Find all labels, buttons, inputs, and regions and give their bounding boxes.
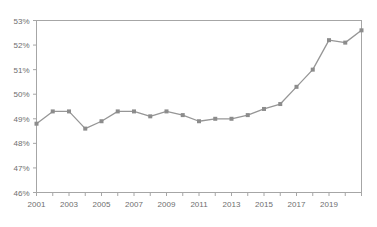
series-marker [148,114,152,118]
series-marker [83,127,87,131]
x-axis-tick-label: 2019 [320,200,338,209]
y-axis-tick-label: 46% [13,189,29,198]
series-markers [35,28,364,130]
line-chart: 46%47%48%49%50%51%52%53% 200120032005200… [0,0,377,227]
series-marker [327,38,331,42]
x-axis-tick-label: 2015 [255,200,273,209]
y-axis-tick-label: 53% [13,17,29,26]
y-axis-ticks [33,21,37,193]
y-axis-labels: 46%47%48%49%50%51%52%53% [13,17,29,198]
series-marker [35,122,39,126]
x-axis-tick-label: 2003 [60,200,78,209]
x-axis-tick-label: 2011 [190,200,208,209]
series-marker [360,28,364,32]
series-marker [67,109,71,113]
x-axis-tick-label: 2005 [93,200,111,209]
y-axis-tick-label: 51% [13,66,29,75]
y-axis-tick-label: 50% [13,90,29,99]
series-marker [213,117,217,121]
plot-frame [37,21,362,193]
y-axis-tick-label: 49% [13,115,29,124]
x-axis-tick-label: 2007 [125,200,143,209]
y-axis-tick-label: 48% [13,139,29,148]
series-marker [100,119,104,123]
series-marker [116,109,120,113]
series-marker [311,68,315,72]
series-marker [262,107,266,111]
series-marker [246,113,250,117]
series-marker [197,119,201,123]
series-marker [181,113,185,117]
y-axis-tick-label: 52% [13,41,29,50]
series-marker [343,41,347,45]
x-axis-ticks [37,193,362,197]
x-axis-tick-label: 2013 [223,200,241,209]
chart-canvas: 46%47%48%49%50%51%52%53% 200120032005200… [0,0,377,227]
x-axis-labels: 2001200320052007200920112013201520172019 [28,200,339,209]
series-marker [51,109,55,113]
x-axis-tick-label: 2009 [158,200,176,209]
x-axis-tick-label: 2001 [28,200,46,209]
series-line [37,30,362,128]
series-marker [230,117,234,121]
series-marker [295,85,299,89]
series-marker [132,109,136,113]
series-marker [165,109,169,113]
y-axis-tick-label: 47% [13,164,29,173]
series-marker [278,102,282,106]
x-axis-tick-label: 2017 [288,200,306,209]
